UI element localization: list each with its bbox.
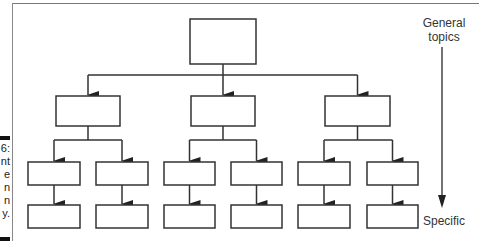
topic-boxes	[28, 19, 418, 228]
topic-box-level-2	[56, 96, 120, 126]
specific-label: Specific	[416, 214, 472, 228]
general-label-line-2: topics	[416, 30, 472, 44]
topic-box-level-1	[190, 19, 256, 64]
topic-box-level-3	[164, 162, 215, 185]
topic-box-level-2	[191, 96, 255, 126]
topic-box-level-4	[367, 205, 418, 228]
general-label-line-1: General	[416, 16, 472, 30]
topic-box-level-4	[231, 205, 282, 228]
topic-box-level-3	[298, 162, 350, 185]
topic-box-level-3	[231, 162, 282, 185]
topic-box-level-4	[298, 205, 350, 228]
topic-box-level-3	[96, 162, 148, 185]
general-topics-label: General topics	[416, 16, 472, 44]
topic-box-level-2	[325, 96, 390, 126]
arrow-down-icon	[438, 195, 446, 208]
topic-box-level-4	[28, 205, 80, 228]
hierarchy-diagram	[0, 0, 479, 241]
topic-box-level-3	[28, 162, 80, 185]
topic-box-level-4	[96, 205, 148, 228]
topic-box-level-4	[164, 205, 215, 228]
general-to-specific-arrow	[438, 47, 446, 208]
topic-box-level-3	[367, 162, 418, 185]
